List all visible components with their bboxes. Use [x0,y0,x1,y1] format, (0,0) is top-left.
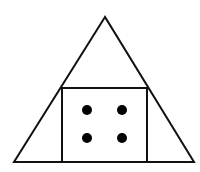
inscribed-square [62,88,147,162]
triangle-shape [14,17,194,162]
dot-3 [82,133,92,143]
dots-group [82,105,127,143]
dot-1 [82,105,92,115]
dot-4 [117,133,127,143]
dot-2 [117,105,127,115]
diagram-canvas [0,0,200,172]
